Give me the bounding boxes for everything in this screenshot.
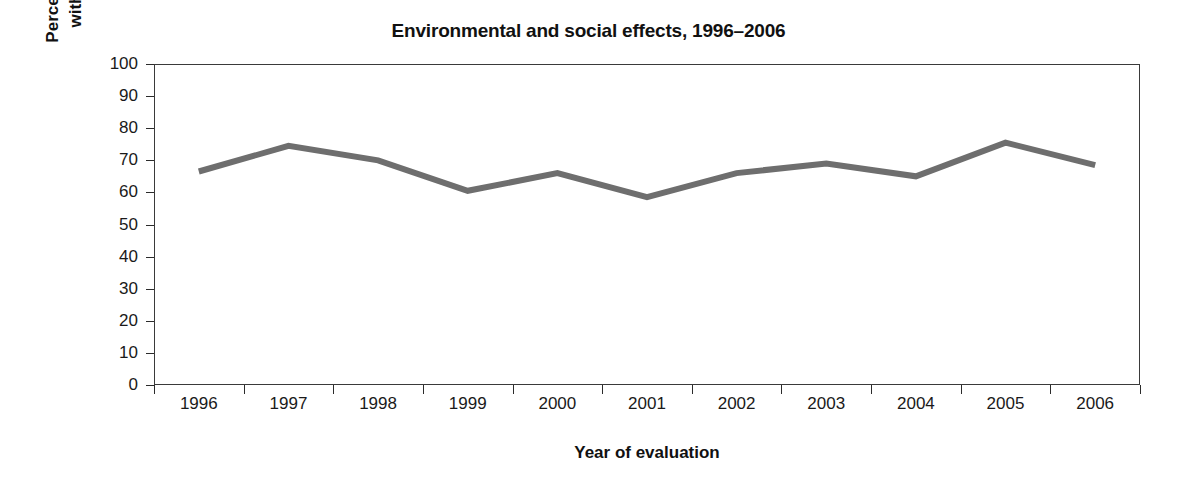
y-tick-mark <box>146 289 154 290</box>
x-tick-mark <box>1050 385 1051 394</box>
x-tick-mark <box>423 385 424 394</box>
x-tick-label: 1996 <box>154 394 244 414</box>
x-tick-label: 1999 <box>423 394 513 414</box>
y-axis-title: Percentage of projects with “high” ratin… <box>36 0 92 116</box>
y-tick-mark <box>146 192 154 193</box>
x-tick-label: 1998 <box>333 394 423 414</box>
y-tick-label: 70 <box>92 151 138 168</box>
y-tick-mark <box>146 64 154 65</box>
y-tick-label: 50 <box>92 216 138 233</box>
x-tick-mark <box>513 385 514 394</box>
x-tick-mark <box>602 385 603 394</box>
y-tick-mark <box>146 225 154 226</box>
x-tick-mark <box>333 385 334 394</box>
x-tick-mark <box>961 385 962 394</box>
y-tick-mark <box>146 160 154 161</box>
y-tick-mark <box>146 257 154 258</box>
y-tick-mark <box>146 96 154 97</box>
series-line-percentage-high-ratings <box>199 143 1095 198</box>
y-tick-label: 40 <box>92 248 138 265</box>
x-tick-mark <box>871 385 872 394</box>
y-tick-label: 60 <box>92 183 138 200</box>
x-tick-label: 2000 <box>512 394 602 414</box>
y-tick-label: 80 <box>92 119 138 136</box>
x-tick-label: 2005 <box>961 394 1051 414</box>
data-line-chart <box>154 64 1140 385</box>
x-tick-mark <box>244 385 245 394</box>
y-tick-label: 100 <box>92 55 138 72</box>
y-axis-title-line-1: Percentage of projects <box>41 0 64 43</box>
chart-title: Environmental and social effects, 1996–2… <box>0 20 1177 42</box>
x-tick-mark <box>154 385 155 394</box>
x-tick-label: 2001 <box>602 394 692 414</box>
y-tick-mark <box>146 385 154 386</box>
y-tick-mark <box>146 321 154 322</box>
x-tick-mark <box>1140 385 1141 394</box>
x-tick-label: 2002 <box>692 394 782 414</box>
x-tick-label: 2003 <box>781 394 871 414</box>
y-tick-mark <box>146 353 154 354</box>
x-tick-label: 2004 <box>871 394 961 414</box>
y-axis-title-line-2: with “high” ratings <box>64 0 87 28</box>
x-tick-label: 2006 <box>1050 394 1140 414</box>
x-tick-label: 1997 <box>243 394 333 414</box>
x-axis-title: Year of evaluation <box>154 443 1140 463</box>
x-tick-mark <box>781 385 782 394</box>
y-tick-label: 10 <box>92 344 138 361</box>
y-tick-mark <box>146 128 154 129</box>
x-tick-mark <box>692 385 693 394</box>
y-tick-label: 90 <box>92 87 138 104</box>
y-tick-label: 30 <box>92 280 138 297</box>
chart-figure: Environmental and social effects, 1996–2… <box>0 0 1177 494</box>
y-tick-label: 20 <box>92 312 138 329</box>
y-tick-label: 0 <box>92 376 138 393</box>
